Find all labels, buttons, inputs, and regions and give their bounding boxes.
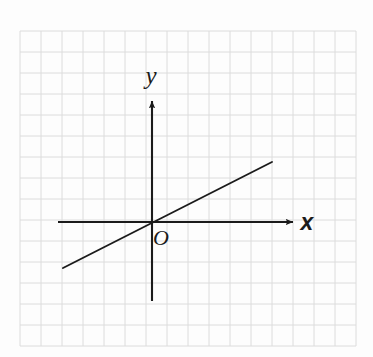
coordinate-plane-figure: x y O — [0, 0, 373, 357]
y-axis-label: y — [142, 62, 157, 89]
origin-label: O — [153, 225, 169, 250]
x-axis-label: x — [299, 209, 315, 235]
figure-canvas: x y O — [0, 0, 373, 357]
